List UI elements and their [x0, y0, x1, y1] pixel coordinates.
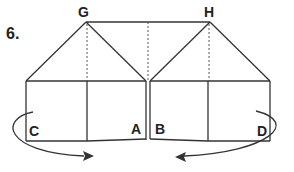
left-box-bottom-a	[87, 139, 146, 141]
folding-diagram: 6. G H C A B D	[0, 0, 294, 172]
label-c: C	[29, 124, 39, 138]
right-box-bottom-b	[150, 139, 208, 141]
roof-left-outer	[26, 22, 86, 81]
roof-left-inner	[86, 22, 146, 81]
label-a: A	[131, 122, 141, 136]
label-d: D	[257, 124, 267, 138]
label-b: B	[155, 122, 165, 136]
curved-arrow-left	[13, 112, 84, 156]
diagram-lines	[0, 0, 294, 172]
roof-right-inner	[150, 22, 210, 81]
arrowhead-left-pointing-icon	[175, 152, 186, 162]
roof-right-outer	[210, 22, 270, 81]
figure-number: 6.	[6, 26, 19, 42]
label-h: H	[204, 5, 214, 19]
label-g: G	[78, 5, 89, 19]
arrowhead-right-pointing-icon	[83, 151, 94, 161]
